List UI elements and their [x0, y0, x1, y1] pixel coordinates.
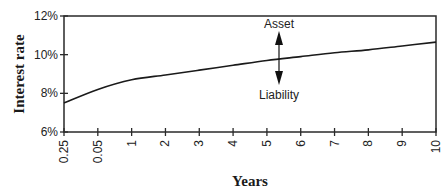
- y-tick-label: 8%: [41, 86, 59, 100]
- plot-frame: [64, 16, 436, 132]
- x-tick-label: 6: [294, 140, 308, 147]
- down-arrow-icon: [275, 71, 283, 85]
- x-tick-label: 2: [158, 140, 172, 147]
- yield-curve-chart: 6%8%10%12% 0.250.0512345678910 Asset Lia…: [0, 0, 447, 191]
- x-tick-label: 1: [125, 140, 139, 147]
- x-tick-label: 8: [361, 140, 375, 147]
- asset-label: Asset: [264, 17, 295, 31]
- x-tick-label: 5: [260, 140, 274, 147]
- y-axis-ticks: 6%8%10%12%: [34, 9, 68, 139]
- y-axis-title: Interest rate: [11, 34, 27, 114]
- x-axis-title: Years: [232, 173, 268, 189]
- x-tick-label: 0.25: [57, 140, 71, 164]
- y-tick-label: 6%: [41, 125, 59, 139]
- x-axis-ticks: 0.250.0512345678910: [57, 128, 443, 163]
- x-tick-label: 10: [429, 140, 443, 154]
- x-tick-label: 9: [395, 140, 409, 147]
- x-tick-label: 7: [328, 140, 342, 147]
- x-tick-label: 4: [226, 140, 240, 147]
- x-tick-label: 3: [192, 140, 206, 147]
- x-tick-label: 0.05: [91, 140, 105, 164]
- y-tick-label: 10%: [34, 48, 58, 62]
- up-arrow-icon: [275, 31, 283, 45]
- liability-label: Liability: [259, 88, 299, 102]
- yield-curve-line: [64, 42, 436, 103]
- y-tick-label: 12%: [34, 9, 58, 23]
